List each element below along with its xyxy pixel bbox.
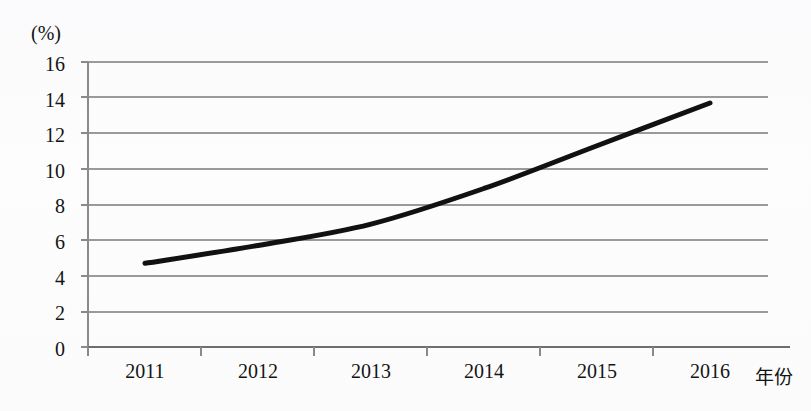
y-axis-ticks — [81, 62, 88, 347]
chart-figure: (%) 16 14 12 10 8 6 4 2 0 2011 2012 2013… — [0, 0, 811, 411]
data-series-line — [145, 103, 710, 263]
plot-area — [0, 0, 811, 411]
x-axis-ticks — [88, 347, 653, 356]
gridlines-horizontal — [88, 62, 768, 312]
